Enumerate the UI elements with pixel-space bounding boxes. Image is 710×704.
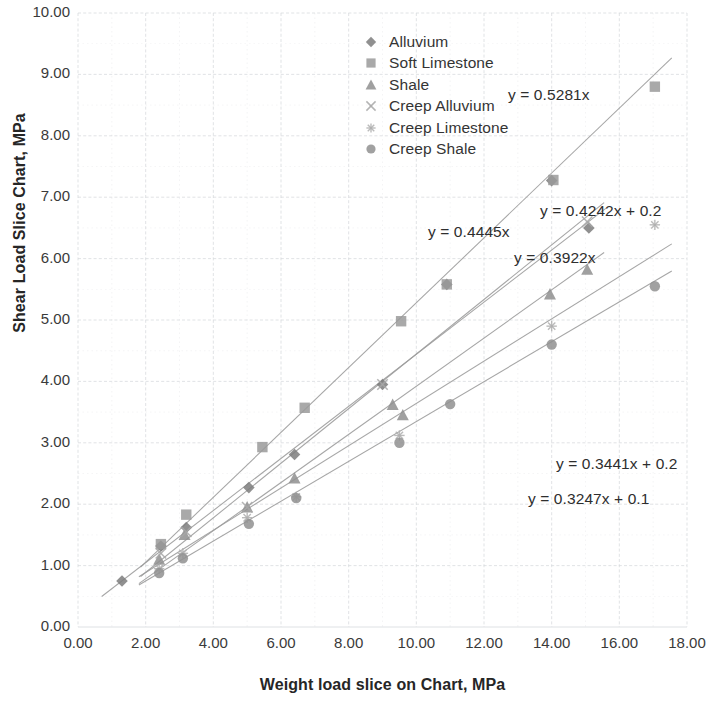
legend-item-soft-limestone[interactable]: Soft Limestone [358, 53, 509, 75]
trendline-equation: y = 0.3247x + 0.1 [528, 490, 649, 508]
diamond-marker-icon [358, 33, 384, 51]
legend-label: Creep Shale [389, 140, 476, 158]
x-tick-label: 14.00 [517, 634, 587, 651]
x-tick-label: 2.00 [111, 634, 181, 651]
legend-label: Soft Limestone [389, 54, 494, 72]
trendline-equation: y = 0.5281x [508, 86, 590, 104]
x-axis-title: Weight load slice on Chart, MPa [78, 676, 687, 694]
x-tick-label: 6.00 [246, 634, 316, 651]
trendline-equation: y = 0.4445x [428, 223, 510, 241]
legend-label: Alluvium [389, 33, 448, 51]
square-marker-icon [358, 54, 384, 72]
legend-item-creep-shale[interactable]: Creep Shale [358, 139, 509, 161]
cross-marker-icon [358, 97, 384, 115]
legend-label: Creep Alluvium [389, 97, 495, 115]
legend-item-creep-alluvium[interactable]: Creep Alluvium [358, 96, 509, 118]
star-marker-icon [358, 119, 384, 137]
y-tick-label: 10.00 [0, 3, 70, 20]
legend-item-shale[interactable]: Shale [358, 74, 509, 96]
circle-marker-icon [358, 140, 384, 158]
legend-item-alluvium[interactable]: Alluvium [358, 31, 509, 53]
chart-legend: AlluviumSoft LimestoneShaleCreep Alluviu… [358, 31, 509, 160]
x-tick-label: 12.00 [449, 634, 519, 651]
x-tick-label: 4.00 [178, 634, 248, 651]
legend-label: Shale [389, 76, 429, 94]
x-tick-label: 8.00 [314, 634, 384, 651]
y-tick-label: 9.00 [0, 64, 70, 81]
y-tick-label: 4.00 [0, 371, 70, 388]
legend-label: Creep Limestone [389, 119, 509, 137]
x-tick-label: 18.00 [652, 634, 710, 651]
trendline-equation: y = 0.3922x [514, 249, 596, 267]
y-axis-title: Shear Load Slice Chart, MPa [11, 83, 29, 363]
y-tick-label: 3.00 [0, 433, 70, 450]
x-tick-label: 0.00 [43, 634, 113, 651]
x-tick-label: 16.00 [584, 634, 654, 651]
x-tick-label: 10.00 [381, 634, 451, 651]
trendline-equation: y = 0.4242x + 0.2 [540, 202, 661, 220]
y-tick-label: 1.00 [0, 556, 70, 573]
legend-item-creep-limestone[interactable]: Creep Limestone [358, 117, 509, 139]
trendline-equation: y = 0.3441x + 0.2 [556, 455, 677, 473]
y-tick-label: 0.00 [0, 617, 70, 634]
triangle-marker-icon [358, 76, 384, 94]
y-tick-label: 2.00 [0, 494, 70, 511]
